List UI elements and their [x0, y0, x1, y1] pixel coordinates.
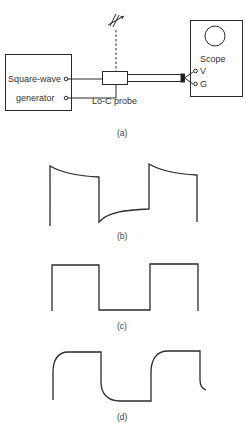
scope-screen — [205, 26, 225, 46]
waveform-c — [52, 264, 198, 311]
waveform-b — [50, 164, 197, 226]
lo-c-probe-body — [103, 72, 128, 85]
probe-compensation-diagram — [0, 0, 246, 432]
waveform-d — [53, 351, 206, 401]
scope-terminal-g-dot — [194, 82, 198, 86]
scope-label: Scope — [200, 54, 226, 64]
variable-capacitor-icon — [108, 14, 124, 27]
caption-b: (b) — [117, 231, 127, 241]
generator-terminal-gnd — [64, 96, 68, 100]
scope-terminal-v-label: V — [200, 66, 206, 76]
caption-a: (a) — [117, 128, 127, 138]
caption-c: (c) — [117, 321, 127, 331]
generator-label-line2: generator — [16, 93, 55, 103]
scope-terminal-g-label: G — [200, 79, 207, 89]
generator-terminal-out — [64, 77, 68, 81]
caption-d: (d) — [117, 412, 127, 422]
probe-plug — [181, 74, 185, 82]
probe-label: Lo-C probe — [92, 96, 137, 106]
generator-label-line1: Square-wave — [8, 74, 61, 84]
scope-terminal-v-dot — [194, 69, 198, 73]
